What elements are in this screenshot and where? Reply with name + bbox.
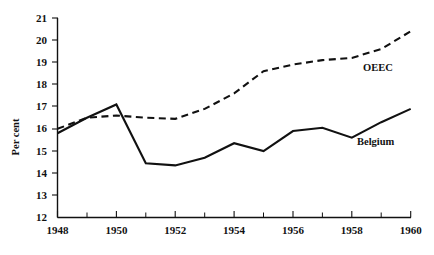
x-axis-tick-labels: 1948 1950 1952 1954 1956 1958 1960 [47, 224, 423, 236]
y-tick-label: 19 [36, 56, 48, 68]
y-tick-label: 16 [36, 122, 48, 134]
x-tick-label: 1948 [47, 224, 70, 236]
y-tick-label: 17 [36, 100, 48, 112]
x-tick-label: 1952 [164, 224, 187, 236]
series-label-belgium: Belgium [357, 136, 395, 147]
y-tick-label: 15 [36, 145, 48, 157]
series-label-oeec: OEEC [363, 62, 393, 73]
y-tick-label: 18 [36, 78, 48, 90]
y-tick-label: 14 [36, 167, 48, 179]
y-tick-label: 12 [36, 211, 48, 223]
x-tick-label: 1950 [105, 224, 128, 236]
series-line-oeec [58, 31, 411, 129]
line-chart: Per cent 21 20 19 18 17 16 15 14 13 12 [0, 0, 434, 255]
x-tick-label: 1956 [282, 224, 305, 236]
x-tick-label: 1954 [223, 224, 246, 236]
series-line-belgium [58, 104, 411, 165]
y-tick-label: 21 [36, 12, 47, 24]
y-axis-tick-labels: 21 20 19 18 17 16 15 14 13 12 [36, 12, 48, 223]
x-axis-ticks-major [58, 211, 411, 218]
x-tick-label: 1960 [400, 224, 423, 236]
y-axis-title: Per cent [10, 118, 21, 155]
y-tick-label: 20 [36, 34, 48, 46]
chart-container: Per cent 21 20 19 18 17 16 15 14 13 12 [0, 0, 434, 255]
y-tick-label: 13 [36, 189, 48, 201]
x-tick-label: 1958 [341, 224, 364, 236]
